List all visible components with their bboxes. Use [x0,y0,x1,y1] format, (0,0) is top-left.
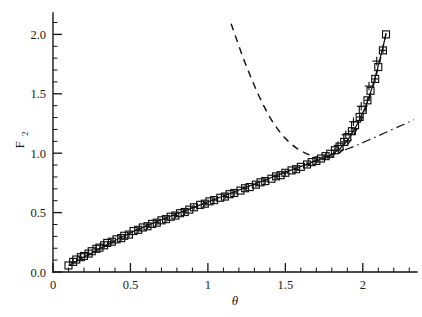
x-tick-label: 2 [360,278,366,292]
x-axis-title: θ [232,293,239,308]
plus-in-square-data [70,47,387,265]
dashed-u-curve [231,24,386,158]
y-tick-label: 1.0 [30,147,46,161]
y-axis-title-group: F 2 [12,132,30,149]
figure-container: 00.511.52 0.00.51.01.52.0 θ F 2 [0,0,422,317]
y-tick-label: 0.5 [30,206,46,220]
y-tick-label: 2.0 [30,28,46,42]
x-axis-tick-labels: 00.511.52 [50,278,366,292]
chart-canvas: 00.511.52 0.00.51.01.52.0 θ F 2 [0,0,422,317]
y-axis-title-subscript: 2 [20,132,30,137]
model-curves-group [68,24,413,266]
y-axis-tick-labels: 0.00.51.01.52.0 [30,28,46,280]
x-tick-label: 0 [50,278,56,292]
plus-marker-data [334,57,381,150]
open-square-data [65,31,390,269]
y-axis-title: F [12,141,27,148]
x-tick-label: 0.5 [123,278,139,292]
data-markers-group [65,31,390,269]
x-tick-label: 1.5 [278,278,294,292]
x-tick-label: 1 [205,278,211,292]
y-tick-label: 1.5 [30,87,46,101]
y-tick-label: 0.0 [30,266,46,280]
